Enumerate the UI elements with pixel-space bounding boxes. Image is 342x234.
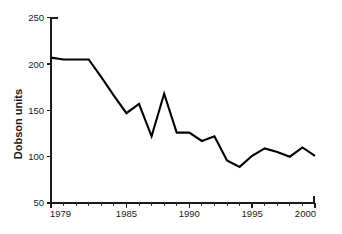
y-tick-label: 100 bbox=[28, 151, 44, 162]
y-tick-label: 150 bbox=[28, 105, 44, 116]
y-tick-label: 200 bbox=[28, 59, 44, 70]
chart-canvas: 50100150200250 19791985199019952000 Dobs… bbox=[0, 0, 342, 234]
ozone-line-chart: 50100150200250 19791985199019952000 Dobs… bbox=[0, 0, 342, 234]
y-axis-title: Dobson units bbox=[12, 89, 24, 159]
x-tick-label: 1985 bbox=[116, 208, 137, 219]
y-axis-tick-labels: 50100150200250 bbox=[28, 12, 44, 208]
axis-frame bbox=[51, 17, 315, 203]
x-axis-tick-labels: 19791985199019952000 bbox=[50, 208, 316, 219]
x-tick-label: 1990 bbox=[179, 208, 200, 219]
y-tick-label: 50 bbox=[33, 197, 44, 208]
data-series-line bbox=[51, 58, 315, 167]
x-tick-label: 1979 bbox=[50, 208, 71, 219]
x-tick-label: 2000 bbox=[295, 208, 316, 219]
x-tick-label: 1995 bbox=[242, 208, 263, 219]
y-tick-label: 250 bbox=[28, 12, 44, 23]
